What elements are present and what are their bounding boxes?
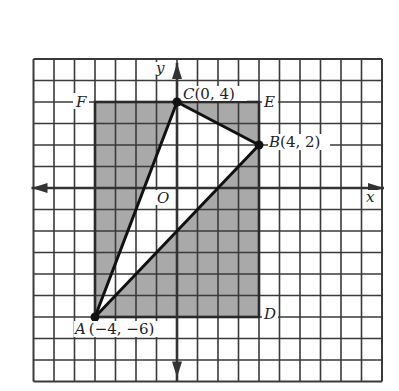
x-axis-label: x: [366, 188, 375, 206]
point-f-label: F: [75, 93, 87, 111]
point-a-label: A(−4, −6): [73, 320, 154, 338]
origin-label: O: [157, 189, 169, 207]
point-d-label: D: [263, 305, 276, 323]
point-c-dot: [173, 98, 182, 107]
point-c-name: C: [183, 85, 195, 103]
point-b-coords: (4, 2): [280, 133, 320, 151]
point-c-coords: (0, 4): [194, 85, 234, 103]
point-b-name: B: [268, 133, 280, 151]
point-a-coords: (−4, −6): [89, 320, 154, 338]
point-a-name: A: [73, 320, 86, 338]
y-axis-up-arrow-icon: [172, 63, 182, 79]
point-c-label: C(0, 4): [183, 85, 235, 103]
y-axis-down-arrow-icon: [172, 362, 182, 378]
point-b-label: B(4, 2): [268, 133, 320, 151]
point-b-dot: [255, 141, 264, 150]
point-e-label: E: [263, 93, 275, 111]
y-axis-label: y: [155, 59, 165, 77]
coordinate-diagram: y C(0, 4) F E B(4, 2) O x D A(−4, −6): [0, 0, 399, 391]
